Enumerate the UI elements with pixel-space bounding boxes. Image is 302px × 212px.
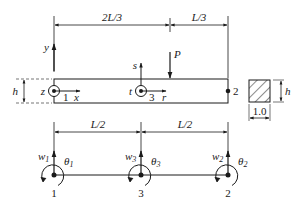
- bottom-dimension-group: L/2 L/2: [54, 118, 228, 156]
- s-axis-label: s: [133, 59, 137, 71]
- node-3-label: 3: [138, 187, 144, 199]
- theta3-label: θ3: [151, 155, 160, 169]
- beam-diagram: 2L/3 L/3 y P h z 1 x s t 3 r 2: [0, 0, 302, 212]
- w2-label: w2: [212, 150, 223, 164]
- cross-section-width-label: 1.0: [253, 105, 267, 117]
- cross-section-hatched: [249, 80, 270, 102]
- theta2-label: θ2: [238, 155, 247, 169]
- node-1-label-top: 1: [63, 91, 69, 103]
- node-2-dot: [226, 173, 231, 178]
- theta1-label: θ1: [64, 155, 73, 169]
- y-axis-label: y: [43, 41, 49, 53]
- dimension-2L3-label: 2L/3: [102, 11, 123, 23]
- dimension-L2-right-label: L/2: [177, 118, 193, 130]
- beam-height-label: h: [13, 85, 19, 97]
- node-2-label: 2: [225, 187, 231, 199]
- dimension-L2-left-label: L/2: [90, 118, 106, 130]
- z-axis-label: z: [40, 85, 46, 97]
- dimension-L3-label: L/3: [191, 11, 207, 23]
- w3-label: w3: [125, 150, 136, 164]
- node-3-label-top: 3: [149, 91, 155, 103]
- node-1-label: 1: [51, 187, 57, 199]
- node-3-origin: s t 3 r: [129, 59, 167, 103]
- t-axis-label: t: [129, 85, 133, 97]
- node-1-dot: [52, 173, 57, 178]
- cross-section: h 1.0: [249, 80, 291, 121]
- load-p-label: P: [173, 48, 181, 60]
- r-axis-label: r: [162, 91, 167, 103]
- node-1-origin: z 1 x: [40, 85, 80, 103]
- cross-section-height-label: h: [285, 85, 291, 97]
- x-axis-label: x: [73, 91, 79, 103]
- node-2-label-top: 2: [233, 85, 239, 97]
- node-3-dot: [139, 173, 144, 178]
- node-2-dot: [226, 89, 231, 94]
- w1-label: w1: [38, 150, 49, 164]
- beam-height-dimension: h: [13, 79, 53, 103]
